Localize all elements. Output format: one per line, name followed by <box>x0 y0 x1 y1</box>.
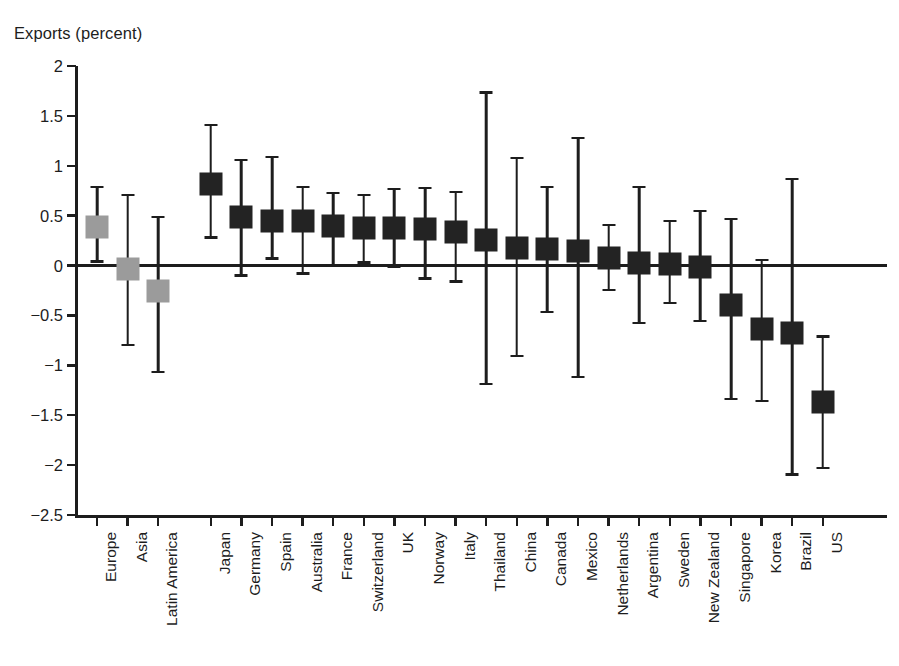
x-tick-mark <box>271 515 274 526</box>
error-bar-cap-upper <box>510 157 523 160</box>
error-bar-cap-lower <box>357 261 370 264</box>
x-tick-label: Norway <box>431 532 447 585</box>
error-bar-cap-upper <box>419 187 432 190</box>
error-bar-cap-upper <box>480 91 493 94</box>
x-tick-label: France <box>339 532 355 580</box>
error-bar-cap-lower <box>786 473 799 476</box>
x-tick-mark <box>454 515 457 526</box>
y-tick-label: −2.5 <box>17 506 63 525</box>
error-bar-cap-upper <box>725 218 738 221</box>
x-tick-mark <box>393 515 396 526</box>
x-tick-label: Latin America <box>164 532 180 626</box>
error-bar-cap-upper <box>296 186 309 189</box>
data-point-marker <box>352 216 375 239</box>
error-bar-cap-lower <box>388 265 401 268</box>
y-tick-mark <box>67 115 76 118</box>
x-tick-label: Australia <box>309 532 325 592</box>
data-point-marker <box>291 209 314 232</box>
error-bar-cap-lower <box>694 320 707 323</box>
y-tick-mark <box>67 214 76 217</box>
data-point-marker <box>475 228 498 251</box>
error-bar-cap-lower <box>480 383 493 386</box>
x-tick-mark <box>424 515 427 526</box>
error-bar-cap-lower <box>204 236 217 239</box>
x-tick-mark <box>760 515 763 526</box>
error-bar-cap-upper <box>91 186 104 189</box>
error-bar-cap-lower <box>816 467 829 470</box>
x-tick-label: Italy <box>462 532 478 560</box>
x-tick-label: Japan <box>217 532 233 574</box>
error-bar <box>271 156 274 260</box>
error-bar-cap-lower <box>235 274 248 277</box>
error-bar-cap-upper <box>663 220 676 223</box>
data-point-marker <box>383 216 406 239</box>
error-bar-cap-lower <box>602 289 615 292</box>
x-tick-label: China <box>523 532 539 573</box>
x-tick-label: Korea <box>768 532 784 573</box>
data-point-marker <box>628 251 651 274</box>
data-point-marker <box>86 215 109 238</box>
y-tick-label: 0.5 <box>17 206 63 225</box>
error-bar-cap-upper <box>121 194 134 197</box>
error-bar-cap-upper <box>327 192 340 195</box>
data-point-marker <box>505 236 528 259</box>
error-bar-cap-lower <box>266 257 279 260</box>
error-bar-cap-upper <box>266 156 279 159</box>
error-bar-cap-upper <box>633 186 646 189</box>
x-tick-mark <box>210 515 213 526</box>
error-bar-cap-upper <box>449 191 462 194</box>
data-point-marker <box>658 252 681 275</box>
y-tick-label: −0.5 <box>17 306 63 325</box>
y-axis-spine <box>75 66 78 517</box>
x-tick-mark <box>822 515 825 526</box>
x-tick-mark <box>577 515 580 526</box>
data-point-marker <box>230 205 253 228</box>
x-tick-label: UK <box>400 532 416 554</box>
x-tick-mark <box>301 515 304 526</box>
error-bar-cap-upper <box>204 124 217 127</box>
error-bar-cap-upper <box>816 335 829 338</box>
error-bar-cap-lower <box>296 272 309 275</box>
x-tick-label: Spain <box>278 532 294 572</box>
x-tick-mark <box>240 515 243 526</box>
data-point-marker <box>414 217 437 240</box>
error-bar-cap-lower <box>725 398 738 401</box>
y-tick-mark <box>67 364 76 367</box>
error-bar-cap-lower <box>541 311 554 314</box>
y-tick-label: 2 <box>17 57 63 76</box>
y-tick-mark <box>67 314 76 317</box>
error-bar-cap-upper <box>357 194 370 197</box>
error-bar-cap-lower <box>419 277 432 280</box>
error-bar-cap-lower <box>91 260 104 263</box>
data-point-marker <box>720 294 743 317</box>
x-tick-mark <box>126 515 129 526</box>
error-bar-cap-upper <box>235 159 248 162</box>
x-tick-label: Sweden <box>676 532 692 588</box>
x-tick-mark <box>699 515 702 526</box>
x-tick-label: US <box>829 532 845 554</box>
x-tick-label: Brazil <box>798 532 814 571</box>
x-tick-label: Switzerland <box>370 532 386 612</box>
error-bar-cap-lower <box>663 302 676 305</box>
error-bar-cap-upper <box>786 178 799 181</box>
error-bar-cap-lower <box>633 322 646 325</box>
x-tick-mark <box>607 515 610 526</box>
y-tick-label: 1.5 <box>17 106 63 125</box>
x-tick-mark <box>96 515 99 526</box>
x-tick-mark <box>791 515 794 526</box>
y-tick-label: −1 <box>17 356 63 375</box>
x-tick-label: Singapore <box>737 532 753 603</box>
error-bar-cap-upper <box>152 216 165 219</box>
x-tick-label: Netherlands <box>615 532 631 616</box>
x-axis-spine <box>75 515 887 518</box>
x-tick-mark <box>485 515 488 526</box>
y-tick-label: −2 <box>17 456 63 475</box>
x-tick-mark <box>332 515 335 526</box>
zero-baseline <box>75 264 887 267</box>
error-bar-cap-lower <box>449 280 462 283</box>
x-tick-mark <box>363 515 366 526</box>
error-bar-cap-upper <box>602 224 615 227</box>
data-point-marker <box>689 255 712 278</box>
y-tick-label: 1 <box>17 156 63 175</box>
data-point-marker <box>536 237 559 260</box>
